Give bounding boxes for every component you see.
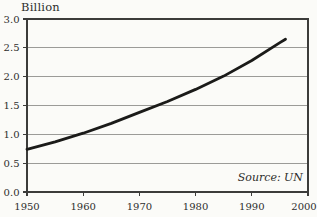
y-tick-label: 2.5 (4, 42, 20, 53)
y-tick-label: 3.0 (4, 14, 20, 25)
y-tick-label: 2.0 (4, 71, 20, 82)
data-curve-population-billions (27, 39, 286, 149)
y-tick-label: 1.5 (4, 100, 20, 111)
x-tick-labels: 195019601970198019902000 (14, 201, 316, 212)
x-tick-label: 1970 (127, 201, 152, 212)
y-tick-labels: 0.00.51.01.52.02.53.0 (4, 14, 20, 198)
chart-canvas: Billion 0.00.51.01.52.02.53.019501960197… (0, 0, 317, 217)
line-chart: 0.00.51.01.52.02.53.01950196019701980199… (0, 0, 317, 217)
source-note: Source: UN (238, 171, 303, 184)
y-tick-label: 0.5 (4, 158, 20, 169)
gridlines (28, 48, 307, 163)
x-tick-label: 2000 (291, 201, 316, 212)
y-tick-label: 0.0 (4, 187, 20, 198)
y-tick-label: 1.0 (4, 129, 20, 140)
x-tick-label: 1960 (70, 201, 95, 212)
x-tick-label: 1980 (183, 201, 208, 212)
axis-ticks (23, 19, 309, 196)
x-tick-label: 1990 (239, 201, 264, 212)
x-tick-label: 1950 (14, 201, 39, 212)
